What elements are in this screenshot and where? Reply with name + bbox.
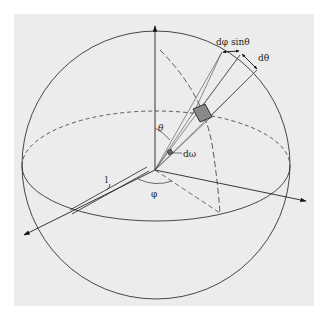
label-length: l	[105, 175, 108, 185]
x-axis	[24, 170, 155, 235]
sphere-outline	[22, 31, 290, 299]
dphi-arrow	[223, 51, 239, 52]
label-dtheta: dθ	[258, 53, 269, 63]
meridian-arc	[160, 50, 220, 213]
label-theta: θ	[158, 123, 164, 133]
phi-arc	[138, 179, 172, 184]
y-axis	[155, 170, 306, 201]
length-segment-b	[72, 171, 149, 214]
label-phi: φ	[151, 189, 157, 199]
surface-patch	[193, 104, 212, 122]
equator-back	[22, 111, 290, 166]
dtheta-arrow	[242, 54, 257, 69]
label-domega: dω	[183, 149, 196, 159]
label-dphi-sintheta: dφ sinθ	[216, 37, 250, 47]
sphere-diagram: dφ sinθ dθ θ dω φ l	[0, 0, 328, 316]
